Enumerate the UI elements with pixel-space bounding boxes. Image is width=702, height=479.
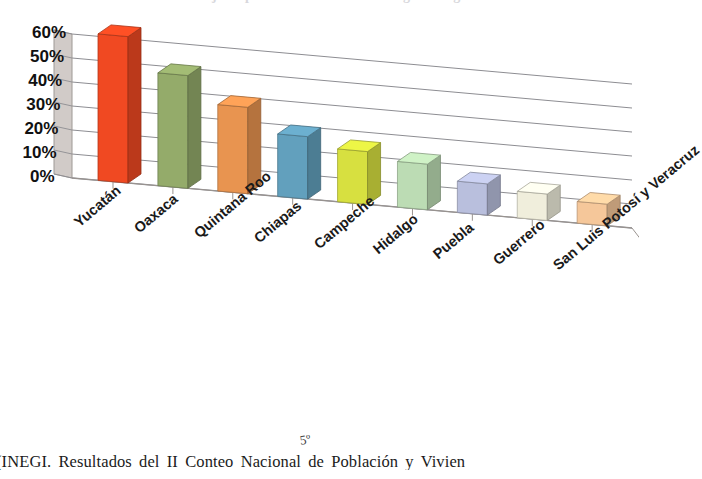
x-axis-category-label: Campeche — [310, 192, 376, 251]
x-axis-category-label: Oaxaca — [131, 190, 181, 235]
x-axis-category-label: San Luis Potosí y Veracruz — [550, 142, 702, 273]
x-axis-category-label: Chiapas — [251, 198, 305, 247]
caption-clip-mask — [0, 470, 639, 479]
stray-ink-mark: 5º — [299, 431, 312, 448]
x-axis-category-label: Yucatán — [71, 182, 124, 230]
x-axis-category-label: Puebla — [430, 220, 477, 263]
x-axis-category-label: Hidalgo — [370, 211, 421, 257]
x-axis-category-label: Guerrero — [490, 216, 548, 268]
figure-caption-text: (INEGI. Resultados del II Conteo Naciona… — [0, 452, 639, 472]
